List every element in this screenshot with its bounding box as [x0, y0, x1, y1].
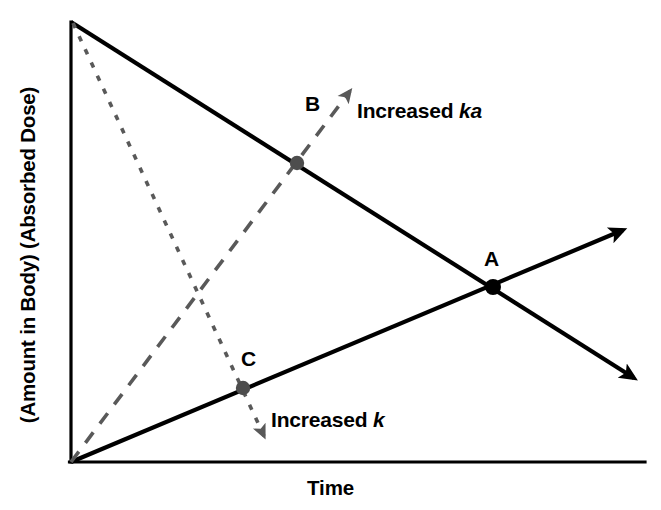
series-increased-ka [71, 91, 350, 462]
point-c-marker [236, 381, 250, 395]
pharmacokinetics-figure: (Amount in Body) (Absorbed Dose) Time A … [0, 0, 661, 510]
point-a-label: A [484, 248, 499, 269]
increased-ka-annotation: Increased ka [357, 100, 482, 121]
point-c-label: C [241, 348, 256, 369]
increased-k-prefix: Increased [271, 408, 373, 431]
increased-k-symbol: k [373, 408, 384, 431]
increased-ka-symbol: ka [459, 99, 482, 122]
point-a-marker [485, 279, 501, 295]
increased-k-annotation: Increased k [271, 409, 384, 430]
increased-ka-prefix: Increased [357, 99, 459, 122]
y-axis-label: (Amount in Body) (Absorbed Dose) [8, 0, 48, 510]
x-axis-label: Time [307, 478, 354, 499]
series-elimination-baseline [71, 22, 634, 378]
point-b-label: B [305, 93, 320, 114]
point-b-marker [290, 156, 304, 170]
plot-area [0, 0, 661, 510]
